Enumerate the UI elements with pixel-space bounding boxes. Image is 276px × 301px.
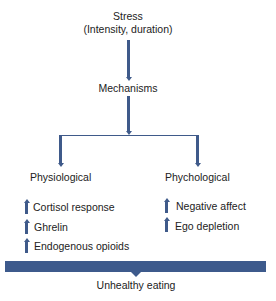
split-line [60,135,199,136]
arrowhead-icon [195,163,201,167]
arrowhead-icon [126,77,132,81]
list-item: Negative affect [176,200,246,212]
outcome-label: Unhealthy eating [97,279,176,291]
stress-title: Stress [113,10,143,22]
mechanisms-label: Mechanisms [99,82,158,94]
arrowhead-icon [58,163,64,167]
arrow-to-psychological [196,135,199,163]
list-item: Cortisol response [33,201,115,213]
psychological-label: Phychological [165,171,230,183]
list-item: Endogenous opioids [34,240,129,252]
stress-subtitle: (Intensity, duration) [83,23,172,35]
up-arrow-icon [165,220,168,232]
arrow-mechanisms-to-split [127,96,130,132]
physiological-label: Physiological [30,171,91,183]
up-arrow-icon [165,201,168,213]
bar-arrowhead-icon [131,272,141,277]
converging-bar [5,261,266,272]
list-item: Ego depletion [175,220,239,232]
arrow-stress-to-mechanisms [127,40,130,77]
list-item: Ghrelin [34,221,68,233]
arrow-to-physiological [59,135,62,163]
up-arrow-icon [25,202,28,214]
up-arrow-icon [25,241,28,253]
up-arrow-icon [25,222,28,234]
